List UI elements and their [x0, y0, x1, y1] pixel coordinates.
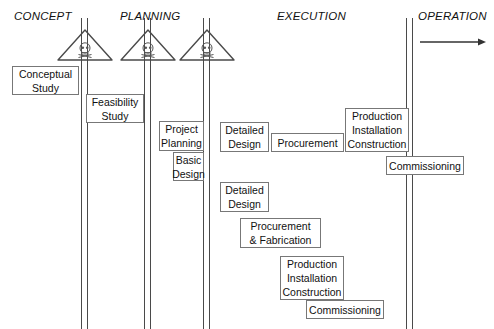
hazard-gate-2	[119, 28, 177, 62]
phase-label-operation: OPERATION	[418, 10, 487, 22]
box-project-planning[interactable]: ProjectPlanning	[159, 121, 204, 151]
box-feasibility-study[interactable]: FeasibilityStudy	[86, 94, 144, 123]
activity-box-line: Study	[102, 109, 129, 123]
box-procurement-fabrication[interactable]: Procurement& Fabrication	[240, 218, 321, 248]
activity-box-line: Conceptual	[19, 67, 72, 81]
skull-icon	[142, 43, 155, 58]
box-commissioning-upper[interactable]: Commissioning	[386, 156, 464, 175]
skull-icon	[201, 43, 214, 58]
box-production-lower[interactable]: ProductionInstallationConstruction	[280, 256, 344, 300]
gate-line-1	[81, 18, 88, 329]
activity-box-line: Production	[287, 257, 337, 271]
box-detailed-design-lower[interactable]: DetailedDesign	[220, 182, 269, 212]
activity-box-line: Construction	[348, 137, 407, 151]
hazard-gate-1	[56, 28, 114, 62]
activity-box-line: Procurement	[277, 136, 337, 150]
activity-box-line: Construction	[283, 285, 342, 299]
box-commissioning-lower[interactable]: Commissioning	[306, 300, 384, 319]
activity-box-line: Production	[352, 109, 402, 123]
activity-box-line: Installation	[287, 271, 337, 285]
hazard-gate-3	[178, 28, 236, 62]
gate-line-2	[144, 18, 151, 329]
box-conceptual-study[interactable]: ConceptualStudy	[12, 66, 79, 95]
activity-box-line: Basic	[176, 153, 202, 167]
activity-box-line: Planning	[161, 136, 202, 150]
activity-box-line: & Fabrication	[250, 233, 312, 247]
activity-box-line: Procurement	[250, 219, 310, 233]
activity-box-line: Commissioning	[389, 159, 461, 173]
activity-box-line: Installation	[352, 123, 402, 137]
phase-label-concept: CONCEPT	[14, 10, 72, 22]
activity-box-line: Feasibility	[92, 95, 139, 109]
phase-label-execution: EXECUTION	[277, 10, 346, 22]
operation-arrow-icon	[420, 34, 486, 52]
skull-icon	[79, 43, 92, 58]
activity-box-line: Design	[228, 137, 261, 151]
activity-box-line: Detailed	[225, 183, 264, 197]
box-basic-design[interactable]: BasicDesign	[173, 152, 204, 181]
activity-box-line: Commissioning	[309, 303, 381, 317]
activity-box-line: Detailed	[225, 123, 264, 137]
activity-box-line: Study	[32, 81, 59, 95]
box-detailed-design-upper[interactable]: DetailedDesign	[220, 122, 269, 152]
activity-box-line: Design	[228, 197, 261, 211]
box-production-upper[interactable]: ProductionInstallationConstruction	[345, 108, 409, 152]
activity-box-line: Project	[165, 122, 198, 136]
project-phase-diagram: CONCEPTPLANNINGEXECUTIONOPERATIONConcept…	[0, 0, 494, 329]
activity-box-line: Design	[172, 167, 205, 181]
box-procurement[interactable]: Procurement	[271, 133, 344, 152]
